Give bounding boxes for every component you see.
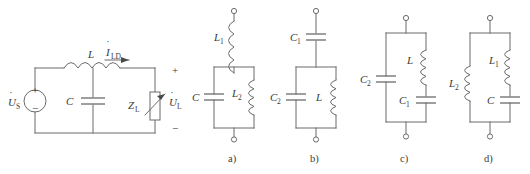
- impedance-ZL-label-sub: L: [135, 105, 140, 114]
- option-d-inductor-L1-coil: [505, 50, 511, 85]
- option-a-inductor-L2-coil: [249, 80, 255, 115]
- option-c-bottom-terminal: [403, 134, 408, 139]
- option-c-caption: c): [400, 153, 409, 165]
- option-b-bottom-terminal: [313, 137, 318, 142]
- option-d-caption: d): [484, 153, 493, 165]
- option-d-top-terminal: [487, 15, 492, 20]
- option-c-capacitor-C2-sub: 2: [367, 79, 371, 88]
- option-c-inductor-L-label: L: [406, 54, 413, 66]
- option-d-capacitor-C-label: C: [487, 94, 495, 106]
- main-circuit: + − ˙ U S L C ˙ I LD Z L: [8, 38, 182, 134]
- option-c: C 2 L C 1 c): [360, 15, 436, 165]
- option-b-inductor-L-coil: [331, 80, 337, 115]
- source-label-sub: S: [16, 102, 20, 111]
- output-plus-sign: +: [172, 64, 178, 76]
- current-arrow-head: [121, 57, 129, 63]
- option-b-capacitor-C2-sub: 2: [277, 97, 281, 106]
- capacitor-C-label: C: [66, 95, 74, 107]
- option-d-inductor-L1-sub: 1: [495, 60, 499, 69]
- option-a-inductor-L2-sub: 2: [238, 93, 242, 102]
- option-d-inductor-L2-sub: 2: [455, 83, 459, 92]
- inductor-L-coil: [64, 63, 120, 69]
- option-b-caption: b): [310, 153, 319, 165]
- source-minus-sign: −: [32, 102, 38, 114]
- impedance-ZL-label: Z: [128, 99, 135, 111]
- option-d: L 2 L 1 C d): [448, 15, 520, 165]
- option-b-inductor-L-label: L: [315, 91, 322, 103]
- option-b-capacitor-C1-sub: 1: [297, 37, 301, 46]
- option-a-inductor-L1-coil: [229, 21, 235, 73]
- option-d-bottom-terminal: [487, 134, 492, 139]
- current-label-sub: LD: [111, 52, 122, 61]
- option-a-inductor-L1-sub: 1: [220, 37, 224, 46]
- output-voltage-label-sub: L: [177, 102, 182, 111]
- option-d-inductor-L2-coil: [465, 66, 471, 101]
- circuit-figure: + − ˙ U S L C ˙ I LD Z L: [0, 0, 530, 174]
- option-c-inductor-L-coil: [421, 50, 427, 85]
- option-c-capacitor-C1-sub: 1: [406, 100, 410, 109]
- option-a: L 1 C L 2 a): [192, 8, 254, 165]
- option-a-caption: a): [228, 153, 237, 165]
- option-a-capacitor-C-label: C: [192, 91, 200, 103]
- option-b: C 1 C 2 L b): [270, 8, 336, 165]
- output-minus-sign: −: [172, 122, 178, 134]
- circuit-figure-canvas: + − ˙ U S L C ˙ I LD Z L: [0, 0, 530, 174]
- inductor-L-label: L: [87, 48, 94, 60]
- option-c-top-terminal: [403, 15, 408, 20]
- option-a-bottom-terminal: [231, 137, 236, 142]
- source-plus-sign: +: [32, 84, 38, 96]
- option-a-top-terminal: [231, 8, 236, 13]
- option-b-top-terminal: [313, 8, 318, 13]
